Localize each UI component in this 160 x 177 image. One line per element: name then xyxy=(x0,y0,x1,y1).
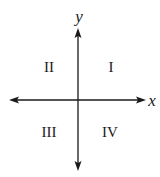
quadrant-ii-label: II xyxy=(44,60,54,75)
x-axis-label: x xyxy=(148,92,156,109)
axes-graphic xyxy=(0,0,160,177)
y-axis-label: y xyxy=(75,8,83,25)
quadrant-iii-label: III xyxy=(42,125,57,140)
quadrant-iv-label: IV xyxy=(102,125,118,140)
quadrant-i-label: I xyxy=(109,60,114,75)
coordinate-plane: y x II I III IV xyxy=(0,0,160,177)
